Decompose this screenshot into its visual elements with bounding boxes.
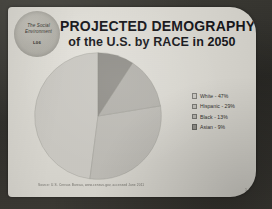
slide-title-block: PROJECTED DEMOGRAPHY of the U.S. by RACE…: [60, 19, 244, 49]
chart-legend: White - 47% Hispanic - 29% Black - 13% A…: [192, 93, 235, 130]
slide-corner-mark: 1: [245, 188, 247, 192]
legend-label-black: Black - 13%: [200, 114, 228, 120]
pie-chart: [34, 52, 162, 180]
pie-chart-svg: [34, 52, 162, 180]
logo-title-line-2: Environment: [17, 29, 57, 35]
pie-slice-white: [35, 53, 98, 179]
legend-label-white: White - 47%: [200, 93, 228, 99]
legend-item-asian: Asian - 9%: [192, 124, 235, 130]
presentation-slide: The Social Environment L06 PROJECTED DEM…: [8, 7, 256, 197]
logo-course-code: L06: [33, 40, 41, 45]
legend-swatch-white: [192, 93, 197, 98]
legend-item-hispanic: Hispanic - 29%: [192, 103, 235, 109]
slide-title-sub: of the U.S. by RACE in 2050: [60, 35, 244, 49]
legend-swatch-asian: [192, 124, 197, 129]
legend-label-hispanic: Hispanic - 29%: [200, 103, 235, 109]
course-logo-badge: The Social Environment L06: [14, 11, 60, 57]
source-citation: Source: U.S. Census Bureau, www.census.g…: [38, 183, 144, 187]
legend-item-white: White - 47%: [192, 93, 235, 99]
slide-title-main: PROJECTED DEMOGRAPHY: [60, 19, 244, 34]
legend-label-asian: Asian - 9%: [200, 124, 225, 130]
slide-photo-screenshot: The Social Environment L06 PROJECTED DEM…: [0, 0, 272, 209]
legend-swatch-black: [192, 114, 197, 119]
legend-item-black: Black - 13%: [192, 114, 235, 120]
legend-swatch-hispanic: [192, 104, 197, 109]
pie-slice-group: [35, 53, 162, 180]
pie-slice-hispanic: [90, 106, 161, 179]
